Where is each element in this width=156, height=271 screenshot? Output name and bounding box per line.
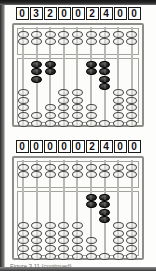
bead-inactive[interactable] xyxy=(58,97,69,104)
bead-inactive[interactable] xyxy=(113,38,124,45)
bead-inactive[interactable] xyxy=(45,171,56,178)
bead-inactive[interactable] xyxy=(72,97,83,104)
bead-inactive[interactable] xyxy=(99,171,110,178)
bead-active[interactable] xyxy=(31,76,42,83)
bead-inactive[interactable] xyxy=(99,38,110,45)
bead-inactive[interactable] xyxy=(18,89,29,96)
bead-inactive[interactable] xyxy=(31,164,42,171)
bead-inactive[interactable] xyxy=(86,112,97,119)
bead-inactive[interactable] xyxy=(72,164,83,171)
bead-inactive[interactable] xyxy=(31,253,42,260)
bead-inactive[interactable] xyxy=(45,245,56,252)
bead-inactive[interactable] xyxy=(31,171,42,178)
bead-active[interactable] xyxy=(86,61,97,68)
bead-inactive[interactable] xyxy=(113,253,124,260)
bead-inactive[interactable] xyxy=(126,89,137,96)
bead-inactive[interactable] xyxy=(58,171,69,178)
bead-active[interactable] xyxy=(86,68,97,75)
bead-inactive[interactable] xyxy=(113,97,124,104)
bead-inactive[interactable] xyxy=(31,222,42,229)
bead-inactive[interactable] xyxy=(86,38,97,45)
bead-inactive[interactable] xyxy=(58,237,69,244)
bead-inactive[interactable] xyxy=(126,253,137,260)
bead-inactive[interactable] xyxy=(58,31,69,38)
bead-inactive[interactable] xyxy=(18,120,29,127)
bead-inactive[interactable] xyxy=(72,120,83,127)
bead-inactive[interactable] xyxy=(99,31,110,38)
bead-active[interactable] xyxy=(99,83,110,90)
bead-inactive[interactable] xyxy=(18,237,29,244)
bead-active[interactable] xyxy=(99,61,110,68)
bead-inactive[interactable] xyxy=(99,164,110,171)
bead-inactive[interactable] xyxy=(86,120,97,127)
bead-inactive[interactable] xyxy=(58,104,69,111)
bead-inactive[interactable] xyxy=(126,171,137,178)
bead-inactive[interactable] xyxy=(86,31,97,38)
bead-inactive[interactable] xyxy=(58,164,69,171)
bead-inactive[interactable] xyxy=(126,230,137,237)
bead-inactive[interactable] xyxy=(31,31,42,38)
bead-inactive[interactable] xyxy=(18,112,29,119)
bead-inactive[interactable] xyxy=(72,222,83,229)
bead-inactive[interactable] xyxy=(45,230,56,237)
bead-inactive[interactable] xyxy=(126,237,137,244)
bead-inactive[interactable] xyxy=(31,230,42,237)
bead-inactive[interactable] xyxy=(99,253,110,260)
bead-inactive[interactable] xyxy=(72,38,83,45)
abacus-frame-top[interactable] xyxy=(12,23,144,127)
bead-inactive[interactable] xyxy=(31,112,42,119)
bead-inactive[interactable] xyxy=(58,112,69,119)
bead-inactive[interactable] xyxy=(86,104,97,111)
bead-inactive[interactable] xyxy=(72,237,83,244)
bead-inactive[interactable] xyxy=(45,120,56,127)
bead-inactive[interactable] xyxy=(113,112,124,119)
bead-inactive[interactable] xyxy=(45,112,56,119)
bead-inactive[interactable] xyxy=(86,253,97,260)
bead-inactive[interactable] xyxy=(45,164,56,171)
bead-inactive[interactable] xyxy=(113,230,124,237)
bead-active[interactable] xyxy=(31,61,42,68)
bead-inactive[interactable] xyxy=(126,222,137,229)
bead-inactive[interactable] xyxy=(126,245,137,252)
bead-inactive[interactable] xyxy=(58,38,69,45)
bead-inactive[interactable] xyxy=(58,222,69,229)
bead-inactive[interactable] xyxy=(113,104,124,111)
bead-inactive[interactable] xyxy=(31,237,42,244)
bead-inactive[interactable] xyxy=(113,245,124,252)
bead-inactive[interactable] xyxy=(45,237,56,244)
bead-inactive[interactable] xyxy=(58,120,69,127)
bead-inactive[interactable] xyxy=(45,31,56,38)
bead-inactive[interactable] xyxy=(86,171,97,178)
bead-inactive[interactable] xyxy=(18,222,29,229)
bead-active[interactable] xyxy=(99,68,110,75)
bead-inactive[interactable] xyxy=(113,89,124,96)
bead-inactive[interactable] xyxy=(58,230,69,237)
bead-active[interactable] xyxy=(45,68,56,75)
bead-inactive[interactable] xyxy=(45,222,56,229)
bead-inactive[interactable] xyxy=(113,120,124,127)
bead-inactive[interactable] xyxy=(72,31,83,38)
bead-inactive[interactable] xyxy=(113,222,124,229)
bead-inactive[interactable] xyxy=(45,104,56,111)
bead-inactive[interactable] xyxy=(18,230,29,237)
bead-active[interactable] xyxy=(99,201,110,208)
bead-inactive[interactable] xyxy=(45,38,56,45)
bead-inactive[interactable] xyxy=(72,104,83,111)
bead-inactive[interactable] xyxy=(86,237,97,244)
bead-inactive[interactable] xyxy=(99,120,110,127)
bead-inactive[interactable] xyxy=(126,31,137,38)
bead-active[interactable] xyxy=(86,201,97,208)
bead-inactive[interactable] xyxy=(58,245,69,252)
bead-active[interactable] xyxy=(99,194,110,201)
bead-active[interactable] xyxy=(45,61,56,68)
bead-inactive[interactable] xyxy=(31,38,42,45)
bead-inactive[interactable] xyxy=(86,245,97,252)
bead-inactive[interactable] xyxy=(18,245,29,252)
bead-inactive[interactable] xyxy=(72,89,83,96)
bead-active[interactable] xyxy=(99,76,110,83)
bead-inactive[interactable] xyxy=(72,171,83,178)
bead-inactive[interactable] xyxy=(58,89,69,96)
bead-inactive[interactable] xyxy=(113,237,124,244)
bead-inactive[interactable] xyxy=(126,164,137,171)
bead-inactive[interactable] xyxy=(18,104,29,111)
